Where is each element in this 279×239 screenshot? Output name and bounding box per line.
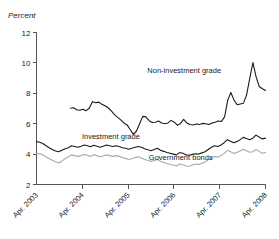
y-tick-label: 8 <box>26 89 31 98</box>
y-tick-label: 12 <box>22 29 31 38</box>
chart-canvas: Percent 24681012 Apr. 2003Apr. 2004Apr. … <box>0 0 279 239</box>
series-annotation-label: Non-investment grade <box>147 66 221 75</box>
y-tick-label: 6 <box>26 120 31 129</box>
y-axis-ticks: 24681012 <box>22 29 37 190</box>
x-tick-label: Apr. 2004 <box>57 191 86 220</box>
series-annotations: Non-investment gradeInvestment gradeGove… <box>82 66 221 162</box>
y-axis-title: Percent <box>8 11 36 20</box>
data-series-group <box>37 63 266 167</box>
x-tick-label: Apr. 2006 <box>148 191 177 220</box>
x-tick-label: Apr. 2007 <box>194 191 223 220</box>
y-axis-title-group: Percent <box>8 11 36 20</box>
series-annotation-label: Government bonds <box>149 153 213 162</box>
line-chart: Percent 24681012 Apr. 2003Apr. 2004Apr. … <box>0 0 279 239</box>
x-tick-label: Apr. 2005 <box>102 191 131 220</box>
y-tick-label: 2 <box>26 181 31 190</box>
y-tick-label: 10 <box>22 59 31 68</box>
series-annotation-label: Investment grade <box>82 132 140 141</box>
x-tick-label: Apr. 2008 <box>240 191 269 220</box>
x-axis-ticks: Apr. 2003Apr. 2004Apr. 2005Apr. 2006Apr.… <box>11 185 269 220</box>
x-tick-label: Apr. 2003 <box>11 191 40 220</box>
y-tick-label: 4 <box>26 150 31 159</box>
